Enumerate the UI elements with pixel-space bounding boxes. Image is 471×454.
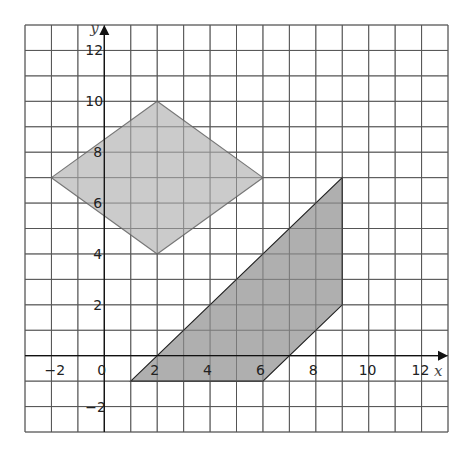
y-tick-label: 2 — [93, 297, 102, 313]
y-tick-label: 4 — [93, 246, 102, 262]
y-tick-label: 12 — [85, 42, 103, 58]
y-tick-label: 10 — [85, 93, 103, 109]
x-tick-label: 0 — [97, 362, 106, 378]
x-tick-label: 2 — [150, 362, 159, 378]
shapes-layer — [25, 25, 448, 432]
y-axis-arrowhead-icon — [99, 25, 109, 35]
grid-overlay — [25, 25, 448, 432]
y-tick-label: 6 — [93, 195, 102, 211]
x-tick-label: −2 — [44, 362, 65, 378]
y-axis-label: y — [89, 19, 99, 37]
x-axis-arrowhead-icon — [438, 351, 448, 361]
x-axis-label: x — [434, 362, 443, 380]
y-tick-label: 8 — [93, 144, 102, 160]
coordinate-grid-diagram: x y −202468101212108642−2 — [0, 0, 471, 454]
x-tick-label: 12 — [412, 362, 430, 378]
x-tick-label: 8 — [309, 362, 318, 378]
x-tick-label: 4 — [203, 362, 212, 378]
x-tick-label: 10 — [359, 362, 377, 378]
y-tick-label: −2 — [85, 399, 106, 415]
x-tick-label: 6 — [256, 362, 265, 378]
